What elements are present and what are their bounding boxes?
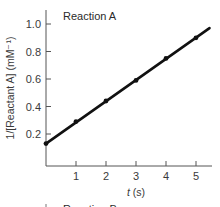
fit-line (46, 28, 210, 144)
data-point (74, 119, 79, 124)
data-point (194, 35, 199, 40)
x-tick-label: 4 (163, 170, 169, 182)
data-point (164, 56, 169, 61)
y-tick-label: 1.0 (26, 18, 41, 30)
y-tick-label: 0.4 (26, 101, 41, 113)
next-panel-title: Reaction B (63, 203, 117, 207)
x-tick-label: 3 (133, 170, 139, 182)
chart: 1.0 0.8 0.6 0.4 0.2 1 2 3 4 5 Reaction A… (0, 0, 220, 207)
data-point (44, 141, 49, 146)
y-tick-label: 0.8 (26, 46, 41, 58)
y-tick-label: 0.2 (26, 128, 41, 140)
data-point (104, 99, 109, 104)
x-tick-label: 5 (193, 170, 199, 182)
x-ticks: 1 2 3 4 5 (73, 161, 199, 182)
chart-title: Reaction A (63, 10, 117, 22)
y-ticks: 1.0 0.8 0.6 0.4 0.2 (26, 18, 51, 140)
x-tick-label: 1 (73, 170, 79, 182)
x-axis-label: t (s) (127, 186, 145, 198)
x-tick-label: 2 (103, 170, 109, 182)
next-panel-cutoff: Reaction B (46, 203, 117, 207)
y-axis-label: 1/[Reactant A] (mM⁻¹) (4, 37, 16, 140)
data-point (134, 78, 139, 83)
y-tick-label: 0.6 (26, 73, 41, 85)
